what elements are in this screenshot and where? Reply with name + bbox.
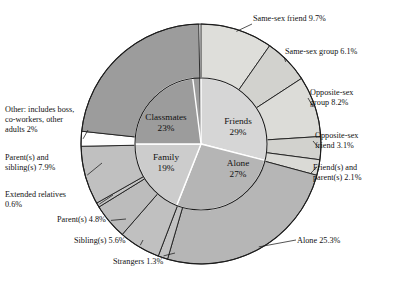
- callout-label-opposite-sex-friend: Opposite-sex friend 3.1%: [315, 131, 358, 151]
- callout-label-other: Other: includes boss, co-workers, other …: [5, 105, 74, 136]
- callout-label-strangers: Strangers 1.3%: [113, 257, 163, 267]
- inner-label-alone: Alone27%: [227, 158, 249, 179]
- callout-label-opposite-sex-group: Opposite-sex group 8.2%: [310, 88, 353, 108]
- callout-label-same-sex-group: Same-sex group 6.1%: [285, 47, 357, 57]
- callout-label-extended-relatives: Extended relatives 0.6%: [5, 190, 66, 210]
- callout-label-siblings: Sibling(s) 5.6%: [74, 236, 126, 246]
- leader-line-same-sex-friend: [236, 24, 252, 31]
- callout-label-friends-and-parents: Friend(s) and parent(s) 2.1%: [313, 163, 361, 183]
- callout-label-alone: Alone 25.3%: [297, 236, 340, 246]
- callout-label-same-sex-friend: Same-sex friend 9.7%: [253, 14, 326, 24]
- pie-chart-figure: Friends29%Alone27%Family19%Classmates23%…: [0, 0, 402, 282]
- inner-ring-group: [135, 78, 267, 210]
- callout-label-parents-and-siblings: Parent(s) and sibling(s) 7.9%: [5, 153, 55, 173]
- callout-label-parents: Parent(s) 4.8%: [57, 215, 106, 225]
